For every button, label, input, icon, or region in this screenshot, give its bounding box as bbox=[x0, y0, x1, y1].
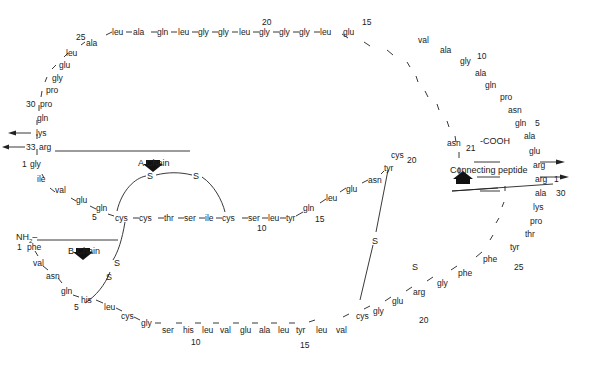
residue-number-10: 10 bbox=[477, 51, 486, 61]
b-residue-his-10: his bbox=[183, 325, 194, 335]
residue-gly-20: gly bbox=[198, 27, 209, 37]
residue-number-30: 30 bbox=[26, 99, 35, 109]
a-residue-glu: glu bbox=[346, 184, 357, 194]
a-residue-ile-10: ile bbox=[205, 213, 214, 223]
disulfide-s: S bbox=[106, 272, 112, 282]
a-residue-cys-11: cys bbox=[222, 213, 235, 223]
residue-number-5: 5 bbox=[535, 118, 540, 128]
residue-leu: leu bbox=[320, 27, 331, 37]
residue-asn: asn bbox=[508, 105, 522, 115]
residue-number-33: 33 bbox=[26, 142, 35, 152]
residue-glu: glu bbox=[529, 146, 540, 156]
residue-gly-10: gly bbox=[460, 56, 471, 66]
disulfide-s: S bbox=[114, 258, 120, 268]
residue-leu: leu bbox=[239, 27, 250, 37]
a-residue-gln-15: gln bbox=[303, 203, 314, 213]
residue-gly: gly bbox=[218, 27, 229, 37]
a-residue-leu: leu bbox=[326, 193, 337, 203]
residue-leu: leu bbox=[66, 48, 77, 58]
residue-gly-15: gly bbox=[299, 27, 310, 37]
residue-gly: gly bbox=[52, 73, 63, 83]
b-residue-leu: leu bbox=[104, 302, 115, 312]
b-residue-number-30: 30 bbox=[556, 188, 565, 198]
residue-gln-5: gln bbox=[515, 118, 526, 128]
a-residue-val: val bbox=[55, 185, 66, 195]
residue-pro: pro bbox=[500, 92, 512, 102]
a-residue-cys-6: cys bbox=[115, 213, 128, 223]
b-residue-leu-15: leu bbox=[278, 325, 289, 335]
a-residue-thr: thr bbox=[164, 213, 174, 223]
a-residue-leu: leu bbox=[268, 213, 279, 223]
b-residue-gln-5: gln bbox=[61, 286, 72, 296]
b-residue-cys-19: cys bbox=[356, 311, 369, 321]
residue-lys: lys bbox=[36, 128, 46, 138]
residue-pro-30: pro bbox=[40, 99, 52, 109]
b-residue-lys: lys bbox=[533, 202, 543, 212]
residue-ala: ala bbox=[440, 45, 451, 55]
residue-leu: leu bbox=[112, 27, 123, 37]
residue-gly: gly bbox=[279, 27, 290, 37]
residue-glu: glu bbox=[343, 27, 354, 37]
proinsulin-diagram: A Chain B Chain Connecting peptide NH2– … bbox=[0, 0, 593, 365]
residue-ala-25: ala bbox=[86, 38, 97, 48]
a-residue-ser: ser bbox=[248, 213, 260, 223]
a-residue-gln-5: gln bbox=[96, 203, 107, 213]
a-residue-number-5: 5 bbox=[92, 212, 97, 222]
a-residue-number-21: 21 bbox=[466, 143, 475, 153]
b-residue-ala-30: ala bbox=[535, 188, 546, 198]
residue-ala: ala bbox=[475, 68, 486, 78]
b-residue-phe-1: phe bbox=[27, 242, 41, 252]
b-residue-tyr: tyr bbox=[510, 242, 519, 252]
residue-number-20: 20 bbox=[262, 17, 271, 27]
b-residue-number-5: 5 bbox=[74, 302, 79, 312]
disulfide-s: S bbox=[147, 171, 153, 181]
b-residue-val: val bbox=[33, 258, 44, 268]
b-residue-leu: leu bbox=[202, 325, 213, 335]
a-residue-gly-1: gly bbox=[30, 159, 41, 169]
cooh-terminus-label: -COOH bbox=[480, 136, 510, 146]
b-residue-phe: phe bbox=[458, 268, 472, 278]
b-residue-glu: glu bbox=[240, 325, 251, 335]
b-residue-ala: ala bbox=[259, 325, 270, 335]
residue-ala: ala bbox=[133, 27, 144, 37]
b-residue-number-25: 25 bbox=[514, 262, 523, 272]
b-residue-val: val bbox=[336, 325, 347, 335]
b-residue-val: val bbox=[220, 325, 231, 335]
residue-ala: ala bbox=[524, 131, 535, 141]
a-residue-number-15: 15 bbox=[315, 214, 324, 224]
residue-glu: glu bbox=[59, 60, 70, 70]
b-residue-arg: arg bbox=[413, 287, 425, 297]
b-residue-his: his bbox=[81, 295, 92, 305]
a-residue-cys-20: cys bbox=[391, 150, 404, 160]
a-residue-number-1: 1 bbox=[22, 159, 27, 169]
b-residue-number-1: 1 bbox=[17, 242, 22, 252]
a-residue-tyr: tyr bbox=[286, 213, 295, 223]
a-residue-ile: ile bbox=[37, 174, 46, 184]
residue-gln: gln bbox=[157, 27, 168, 37]
a-residue-cys-7: cys bbox=[139, 213, 152, 223]
residue-gly: gly bbox=[259, 27, 270, 37]
residue-val: val bbox=[418, 35, 429, 45]
b-chain-label: B Chain bbox=[68, 246, 100, 256]
a-residue-asn-21: asn bbox=[447, 138, 461, 148]
disulfide-s: S bbox=[193, 171, 199, 181]
residue-gln: gln bbox=[37, 113, 48, 123]
b-residue-phe-25: phe bbox=[483, 254, 497, 264]
a-residue-tyr: tyr bbox=[384, 163, 393, 173]
connecting-peptide-label: Connecting peptide bbox=[450, 165, 528, 175]
disulfide-s: S bbox=[372, 236, 378, 246]
disulfide-s: S bbox=[412, 262, 418, 272]
residue-arg-33: arg bbox=[39, 142, 51, 152]
b-residue-number-15: 15 bbox=[300, 340, 309, 350]
residue-gln: gln bbox=[485, 80, 496, 90]
b-residue-glu: glu bbox=[392, 296, 403, 306]
b-residue-ser: ser bbox=[162, 325, 174, 335]
a-residue-number-20: 20 bbox=[407, 155, 416, 165]
b-residue-pro: pro bbox=[530, 216, 542, 226]
a-residue-glu: glu bbox=[76, 195, 87, 205]
b-residue-thr: thr bbox=[525, 229, 535, 239]
b-residue-cys-7: cys bbox=[121, 311, 134, 321]
a-residue-number-10: 10 bbox=[257, 223, 266, 233]
b-residue-tyr: tyr bbox=[296, 325, 305, 335]
a-residue-ser: ser bbox=[184, 213, 196, 223]
